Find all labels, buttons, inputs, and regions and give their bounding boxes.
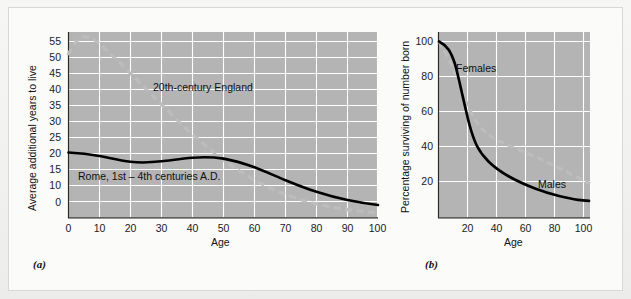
panel-b-vertical-gridlines <box>439 32 584 218</box>
panel-a-xaxis-title: Age <box>211 236 230 248</box>
panel-a-ytick: 30 <box>35 115 61 127</box>
panel-a-ytick: 35 <box>35 99 61 111</box>
panel-a-ytick: 20 <box>35 147 61 159</box>
panel-a-xtick: 40 <box>178 222 207 234</box>
panel-b-annotation-females: Females <box>456 62 496 74</box>
panel-a-yaxis-title: Average additional years to live <box>26 65 38 211</box>
panel-a-ytick: 0 <box>35 196 61 208</box>
panel-a-ytick: 10 <box>35 179 61 191</box>
panel-b-xtick: 20 <box>453 222 482 234</box>
panel-b-xtick: 60 <box>511 222 540 234</box>
panel-b-xtick: 40 <box>482 222 511 234</box>
panel-a-xtick: 10 <box>85 222 114 234</box>
panel-a-xtick: 90 <box>333 222 362 234</box>
figure-container: 55 50 45 40 35 30 25 20 15 10 0 0 10 20 … <box>0 0 631 299</box>
panel-a-xtick: 50 <box>209 222 238 234</box>
panel-a-ytick: 50 <box>35 51 61 63</box>
panel-a: 55 50 45 40 35 30 25 20 15 10 0 0 10 20 … <box>0 0 390 299</box>
panel-a-ytick: 15 <box>35 163 61 175</box>
panel-b-axis-spines <box>438 32 590 218</box>
panel-a-xtick: 80 <box>302 222 331 234</box>
panel-a-annotation-rome: Rome, 1st – 4th centuries A.D. <box>78 170 220 182</box>
panel-a-xtick: 20 <box>116 222 145 234</box>
panel-a-ytick: 55 <box>35 35 61 47</box>
panel-a-tag: (a) <box>33 258 46 270</box>
panel-a-vertical-gridlines <box>69 32 378 218</box>
panel-a-xtick: 60 <box>240 222 269 234</box>
panel-a-xtick: 100 <box>362 222 393 234</box>
panel-b-annotation-males: Males <box>538 178 566 190</box>
panel-a-xtick: 30 <box>147 222 176 234</box>
panel-b-yaxis-title: Percentage surviving of number born <box>399 41 411 213</box>
panel-b-xtick: 80 <box>540 222 569 234</box>
panel-a-annotation-england: 20th-century England <box>153 81 253 93</box>
panel-a-xtick: 0 <box>54 222 83 234</box>
panel-b-xtick: 100 <box>568 222 599 234</box>
panel-b: 100 80 60 40 20 20 40 60 80 100 Age Perc… <box>390 0 631 299</box>
panel-a-ytick: 25 <box>35 131 61 143</box>
panel-a-ytick: 40 <box>35 83 61 95</box>
panel-b-tag: (b) <box>425 258 438 270</box>
panel-a-ytick: 45 <box>35 67 61 79</box>
panel-a-xtick: 70 <box>271 222 300 234</box>
panel-b-xaxis-title: Age <box>504 236 523 248</box>
